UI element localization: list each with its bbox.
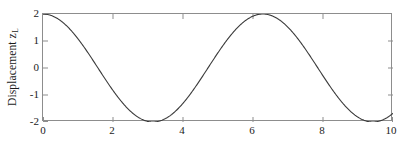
y-tick-label-group: 2 1 0 -1 -2 [18, 0, 39, 143]
x-tick-label-group: 0 2 4 6 8 10 [0, 124, 402, 142]
x-tick-label: 4 [170, 124, 194, 136]
data-series-line [43, 14, 393, 122]
y-tick-label: 0 [21, 62, 39, 72]
y-tick-label: 2 [21, 8, 39, 18]
x-tick-marks [44, 117, 393, 122]
y-axis-label-text: Displacement z [6, 33, 18, 106]
x-tick-label: 2 [100, 124, 124, 136]
x-tick-label: 0 [31, 124, 55, 136]
chart-figure: Displacement zL 2 1 0 -1 -2 [0, 0, 402, 143]
y-tick-label: -1 [21, 89, 39, 99]
x-tick-label: 8 [310, 124, 334, 136]
x-tick-label: 10 [379, 124, 402, 136]
plot-svg [43, 14, 393, 122]
x-tick-marks-top [113, 14, 323, 19]
plot-area [42, 13, 392, 121]
y-tick-marks-right [388, 41, 393, 95]
y-tick-label: 1 [21, 35, 39, 45]
x-tick-label: 6 [240, 124, 264, 136]
y-tick-marks [43, 15, 48, 122]
